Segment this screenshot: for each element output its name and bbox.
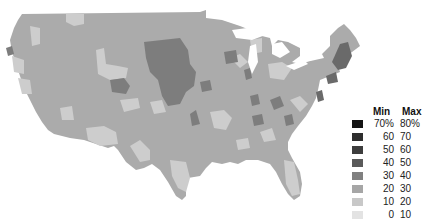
legend-row: 20 30 bbox=[348, 183, 430, 196]
legend-swatch bbox=[352, 211, 363, 219]
legend-row: 60 70 bbox=[348, 131, 430, 144]
legend-max-value: 60 bbox=[400, 144, 426, 156]
legend-max-value: 10 bbox=[400, 209, 426, 221]
legend-swatch bbox=[352, 185, 363, 193]
legend-row: 0 10 bbox=[348, 209, 430, 222]
legend-min-value: 0 bbox=[370, 209, 394, 221]
legend-swatch bbox=[352, 172, 363, 180]
legend-max-value: 70 bbox=[400, 131, 426, 143]
map-legend: Min Max 70% 80% 60 70 50 60 40 50 30 40 … bbox=[348, 106, 430, 222]
legend-min-value: 10 bbox=[370, 196, 394, 208]
legend-swatch bbox=[352, 120, 363, 128]
legend-row: 70% 80% bbox=[348, 118, 430, 131]
legend-max-value: 20 bbox=[400, 196, 426, 208]
legend-max-value: 40 bbox=[400, 170, 426, 182]
legend-header-max: Max bbox=[402, 106, 421, 118]
legend-swatch bbox=[352, 146, 363, 154]
legend-row: 50 60 bbox=[348, 144, 430, 157]
legend-swatch bbox=[352, 198, 363, 206]
legend-min-value: 40 bbox=[370, 157, 394, 169]
legend-min-value: 50 bbox=[370, 144, 394, 156]
legend-row: 30 40 bbox=[348, 170, 430, 183]
legend-header: Min Max bbox=[348, 106, 430, 118]
legend-swatch bbox=[352, 159, 363, 167]
legend-min-value: 70% bbox=[370, 118, 394, 130]
legend-max-value: 80% bbox=[400, 118, 426, 130]
legend-max-value: 30 bbox=[400, 183, 426, 195]
legend-header-min: Min bbox=[373, 106, 390, 118]
legend-min-value: 60 bbox=[370, 131, 394, 143]
legend-min-value: 30 bbox=[370, 170, 394, 182]
legend-swatch bbox=[352, 133, 363, 141]
legend-row: 40 50 bbox=[348, 157, 430, 170]
legend-min-value: 20 bbox=[370, 183, 394, 195]
legend-max-value: 50 bbox=[400, 157, 426, 169]
legend-row: 10 20 bbox=[348, 196, 430, 209]
